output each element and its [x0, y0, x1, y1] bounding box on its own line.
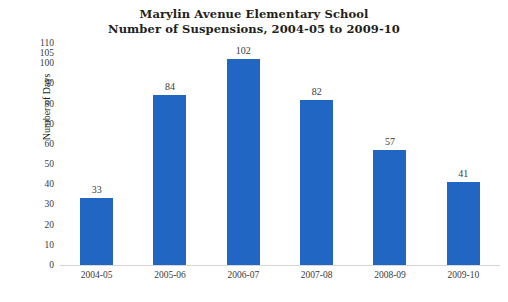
bar-value-label: 82	[280, 86, 353, 97]
y-axis-tick-100: 100	[24, 58, 54, 68]
y-axis-tick-30: 30	[24, 199, 54, 209]
x-axis-tick-2009-10: 2009-10	[427, 270, 500, 280]
chart-title-line-2: Number of Suspensions, 2004-05 to 2009-1…	[0, 22, 508, 37]
y-axis-tick-90: 90	[24, 78, 54, 88]
bar-2009-10[interactable]	[447, 182, 480, 265]
bar-value-label: 57	[353, 136, 426, 147]
bar-group: 41	[427, 43, 500, 265]
bar-group: 33	[60, 43, 133, 265]
x-axis-tick-labels: 2004-052005-062006-072007-082008-092009-…	[60, 270, 500, 286]
y-axis-tick-70: 70	[24, 119, 54, 129]
y-axis-tick-80: 80	[24, 99, 54, 109]
y-axis-tick-10: 10	[24, 240, 54, 250]
x-axis-tick-2007-08: 2007-08	[280, 270, 353, 280]
bar-group: 82	[280, 43, 353, 265]
bar-2005-06[interactable]	[153, 95, 186, 265]
x-axis-tick-2006-07: 2006-07	[207, 270, 280, 280]
y-axis-tick-40: 40	[24, 179, 54, 189]
bar-value-label: 41	[427, 168, 500, 179]
y-axis-tick-0: 0	[24, 260, 54, 270]
y-axis-tick-60: 60	[24, 139, 54, 149]
bar-2008-09[interactable]	[373, 150, 406, 265]
y-axis-tick-105: 105	[24, 48, 54, 58]
bar-group: 84	[133, 43, 206, 265]
bar-2004-05[interactable]	[80, 198, 113, 265]
plot-area: 3384102825741	[60, 43, 500, 265]
y-axis-tick-110: 110	[24, 38, 54, 48]
chart-title-line-1: Marylin Avenue Elementary School	[0, 7, 508, 22]
x-axis-line	[60, 265, 500, 266]
bar-value-label: 33	[60, 184, 133, 195]
bar-group: 57	[353, 43, 426, 265]
bar-value-label: 84	[133, 81, 206, 92]
x-axis-tick-2008-09: 2008-09	[353, 270, 426, 280]
chart-title: Marylin Avenue Elementary School Number …	[0, 7, 508, 37]
bar-group: 102	[207, 43, 280, 265]
y-axis-tick-50: 50	[24, 159, 54, 169]
x-axis-tick-2004-05: 2004-05	[60, 270, 133, 280]
bar-2006-07[interactable]	[227, 59, 260, 265]
y-axis-tick-20: 20	[24, 220, 54, 230]
bar-value-label: 102	[207, 45, 280, 56]
bar-2007-08[interactable]	[300, 100, 333, 265]
x-axis-tick-2005-06: 2005-06	[133, 270, 206, 280]
